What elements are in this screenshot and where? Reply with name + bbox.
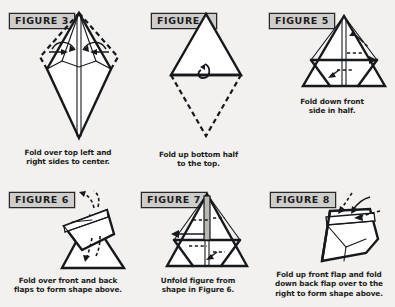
figure-diagram-3	[22, 5, 134, 145]
figure-panel-8: FIGURE 8 Fold up front flap and fold dow…	[262, 184, 395, 307]
instruction-sheet: FIGURE 3 Fold over top left an	[0, 0, 395, 307]
figure-caption-6: Fold over front and back flaps to form s…	[4, 276, 132, 295]
figure-panel-7: FIGURE 7 Unfold figure	[133, 184, 263, 307]
figure-panel-5: FIGURE 5 Fold down fron	[262, 0, 395, 180]
figure-caption-7: Unfold figure from shape in Figure 6.	[141, 276, 255, 295]
figure-diagram-6	[52, 190, 138, 272]
figure-diagram-5	[295, 12, 393, 92]
figure-caption-5: Fold down front side in half.	[276, 97, 388, 116]
figure-diagram-4	[153, 5, 258, 143]
figure-diagram-7	[159, 190, 255, 272]
figure-caption-3: Fold over top left and right sides to ce…	[8, 148, 128, 167]
figure-panel-6: FIGURE 6 Fold over front and back flaps …	[0, 184, 135, 307]
figure-caption-8: Fold up front flap and fold down back fl…	[264, 270, 394, 298]
figure-panel-3: FIGURE 3 Fold over top left an	[0, 0, 135, 180]
figure-caption-4: Fold up bottom half to the top.	[141, 150, 256, 169]
figure-diagram-8	[308, 189, 395, 267]
figure-panel-4: FIGURE 4 Fold up bottom half to the top.	[133, 0, 263, 180]
